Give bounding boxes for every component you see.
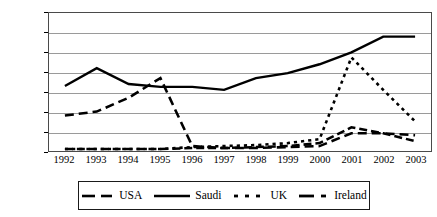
chart-legend: USA Saudi UK Ireland bbox=[78, 181, 370, 210]
legend-label-usa: USA bbox=[119, 190, 142, 202]
line-chart: 01000200030004000500060007000 1992199319… bbox=[0, 0, 437, 217]
long-dash-line-swatch bbox=[81, 192, 115, 200]
legend-label-saudi: Saudi bbox=[195, 190, 221, 202]
x-tick-label: 1994 bbox=[111, 155, 145, 166]
y-tick-mark bbox=[44, 152, 48, 153]
x-tick-label: 1998 bbox=[239, 155, 273, 166]
plot-area bbox=[48, 12, 432, 152]
x-tick-label: 2000 bbox=[303, 155, 337, 166]
legend-label-uk: UK bbox=[271, 190, 288, 202]
series-line-usa bbox=[65, 78, 415, 148]
x-tick-label: 1992 bbox=[47, 155, 81, 166]
series-layer bbox=[49, 13, 431, 151]
x-tick-label: 1993 bbox=[79, 155, 113, 166]
series-line-ireland bbox=[65, 127, 415, 149]
legend-item-ireland: Ireland bbox=[298, 190, 367, 202]
solid-line-swatch bbox=[153, 192, 191, 200]
x-tick-label: 2002 bbox=[367, 155, 401, 166]
legend-label-ireland: Ireland bbox=[334, 190, 367, 202]
x-tick-label: 1995 bbox=[143, 155, 177, 166]
dotted-line-swatch bbox=[233, 192, 267, 200]
series-line-saudi bbox=[65, 37, 415, 90]
x-tick-label: 2001 bbox=[335, 155, 369, 166]
x-tick-label: 1999 bbox=[271, 155, 305, 166]
x-tick-label: 1996 bbox=[175, 155, 209, 166]
dash-dot-line-swatch bbox=[298, 192, 330, 200]
x-tick-label: 2003 bbox=[399, 155, 433, 166]
legend-item-saudi: Saudi bbox=[153, 190, 221, 202]
series-line-uk bbox=[65, 57, 415, 149]
x-tick-label: 1997 bbox=[207, 155, 241, 166]
legend-item-usa: USA bbox=[81, 190, 142, 202]
legend-item-uk: UK bbox=[233, 190, 288, 202]
